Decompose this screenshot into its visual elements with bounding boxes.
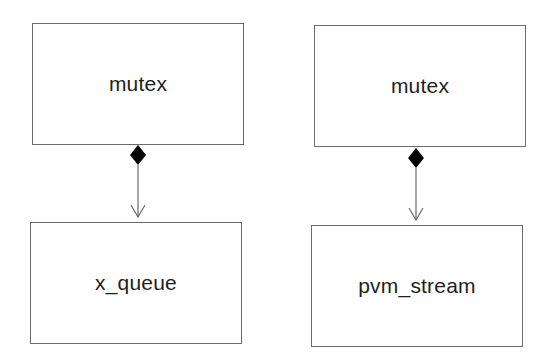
composition-link-left [130, 145, 146, 217]
composition-link-right [408, 148, 424, 220]
connectors [0, 0, 551, 364]
composition-diamond-icon [408, 148, 424, 168]
composition-diamond-icon [130, 145, 146, 165]
